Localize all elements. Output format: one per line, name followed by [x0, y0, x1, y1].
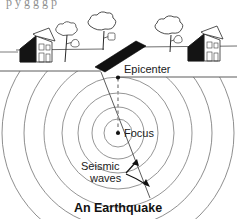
figure-title: An Earthquake [74, 201, 162, 215]
epicenter-point [116, 75, 120, 79]
focus-point [116, 131, 120, 135]
seismic-waves-label-line1: Seismic [81, 160, 120, 172]
epicenter-label: Epicenter [124, 63, 171, 75]
tree-center-small-canopy [108, 33, 115, 40]
seismic-waves-label-line2: waves [89, 172, 122, 184]
focus-label: Focus [124, 127, 154, 139]
earthquake-diagram: p y g g g p [0, 0, 237, 219]
clipped-text-above: p y g g g p [6, 0, 57, 9]
